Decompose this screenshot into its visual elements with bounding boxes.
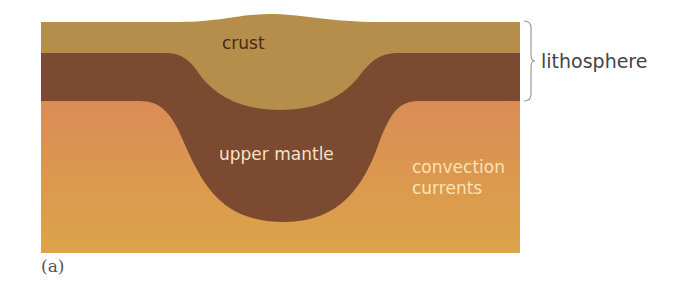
lithosphere-diagram: [0, 0, 674, 282]
panel-label: (a): [41, 258, 64, 275]
upper-mantle-label: upper mantle: [219, 146, 334, 163]
convection-label-line2: currents: [412, 178, 505, 199]
convection-currents-label: convection currents: [412, 157, 505, 199]
convection-label-line1: convection: [412, 157, 505, 178]
lithosphere-brace-icon: [524, 21, 535, 101]
crust-label: crust: [222, 35, 265, 52]
lithosphere-label: lithosphere: [541, 52, 647, 71]
